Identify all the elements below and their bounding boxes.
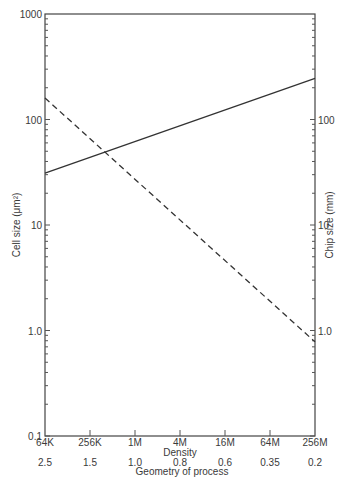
x-tick-label: 256M [302, 437, 327, 448]
axis-ticks [45, 19, 315, 436]
chart: 0.11.01010010001.01010064K2.5256K1.51M1.… [0, 0, 346, 489]
y-tick-label-left: 1000 [20, 9, 43, 20]
x-secondary-tick-label: 0.35 [260, 457, 280, 468]
x-secondary-tick-label: 1.5 [83, 457, 97, 468]
x-tick-label: 16M [215, 437, 234, 448]
x-tick-label: 64M [260, 437, 279, 448]
y-tick-label-right: 1.0 [318, 326, 332, 337]
y-tick-label-left: 10 [31, 220, 43, 231]
y-axis-label-left: Cell size (μm²) [11, 193, 22, 258]
y-tick-label-left: 1.0 [28, 326, 42, 337]
x-tick-label: 64K [36, 437, 54, 448]
tick-labels: 0.11.01010010001.01010064K2.5256K1.51M1.… [20, 9, 335, 468]
data-series [45, 78, 315, 341]
chart-svg: 0.11.01010010001.01010064K2.5256K1.51M1.… [0, 0, 346, 489]
x-secondary-tick-label: 2.5 [38, 457, 52, 468]
x-axis-label: Density [163, 447, 196, 458]
y-tick-label-left: 100 [25, 115, 42, 126]
cell-size-line [45, 98, 315, 342]
x-tick-label: 256K [78, 437, 102, 448]
y-axis-label-right: Chip size (mm) [324, 191, 335, 258]
x-tick-label: 1M [128, 437, 142, 448]
y-tick-label-right: 100 [318, 115, 335, 126]
chip-size-line [45, 78, 315, 173]
plot-frame [45, 14, 315, 436]
x-secondary-tick-label: 0.2 [308, 457, 322, 468]
x-axis-secondary-label: Geometry of process [136, 466, 229, 477]
plot-border [45, 14, 315, 436]
